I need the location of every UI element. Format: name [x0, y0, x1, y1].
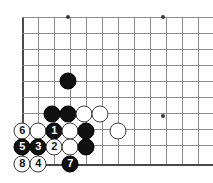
grid-line-horizontal-4: [22, 81, 213, 82]
move-number-label: 4: [35, 158, 41, 169]
stone-black-b-d: [78, 123, 95, 140]
stone-white-w-d: [62, 123, 79, 140]
move-stone-5: 5: [14, 139, 31, 156]
go-board-diagram: 61532847: [0, 0, 213, 183]
stone-white-w-e: [110, 123, 127, 140]
stone-black-b-b: [44, 106, 61, 123]
grid-line-vertical-6: [118, 17, 119, 164]
move-stone-2: 2: [46, 139, 63, 156]
stone-black-b-a: [60, 73, 77, 90]
stone-black-b-e: [78, 139, 95, 156]
move-number-label: 8: [19, 158, 25, 169]
grid-line-vertical-9: [166, 17, 167, 164]
move-stone-4: 4: [30, 156, 47, 173]
grid-line-vertical-5: [102, 17, 103, 164]
star-point-1: [161, 15, 165, 19]
grid-line-horizontal-1: [22, 33, 213, 34]
move-number-label: 6: [19, 125, 25, 136]
grid-line-horizontal-3: [22, 65, 213, 66]
star-point-0: [66, 15, 70, 19]
stone-black-b-c: [60, 106, 77, 123]
stone-white-w-a: [76, 106, 93, 123]
star-point-2: [161, 114, 165, 118]
stone-white-w-f: [62, 139, 79, 156]
move-number-label: 1: [51, 125, 57, 136]
move-stone-3: 3: [30, 139, 47, 156]
stone-white-w-b: [92, 106, 109, 123]
stone-white-w-c: [30, 123, 47, 140]
move-stone-8: 8: [14, 156, 31, 173]
grid-line-horizontal-9: [22, 164, 213, 166]
move-number-label: 3: [35, 141, 41, 152]
grid-line-vertical-7: [134, 17, 135, 164]
move-number-label: 7: [67, 158, 73, 169]
grid-line-vertical-8: [150, 17, 151, 164]
move-number-label: 2: [51, 141, 57, 152]
move-stone-6: 6: [14, 123, 31, 140]
grid-line-horizontal-2: [22, 49, 213, 50]
move-number-label: 5: [19, 141, 25, 152]
grid-line-vertical-10: [182, 17, 183, 164]
grid-line-horizontal-5: [22, 97, 213, 98]
grid-line-vertical-11: [198, 17, 199, 164]
move-stone-7: 7: [62, 156, 79, 173]
move-stone-1: 1: [46, 123, 63, 140]
grid-line-horizontal-0: [22, 17, 213, 18]
